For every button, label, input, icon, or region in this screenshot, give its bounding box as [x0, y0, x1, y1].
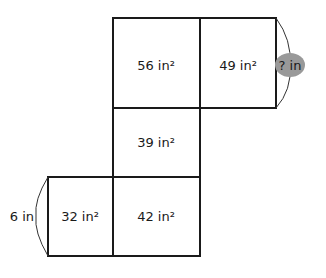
label-top-left: 56 in²: [137, 58, 175, 73]
label-bottom-right: 42 in²: [137, 209, 175, 224]
label-known-dimension: 6 in: [10, 209, 34, 224]
label-unknown-dimension: ? in: [279, 58, 302, 73]
net-diagram: 56 in² 49 in² 39 in² 32 in² 42 in² ? in …: [0, 0, 326, 278]
label-bottom-left: 32 in²: [61, 209, 99, 224]
label-top-right: 49 in²: [219, 58, 257, 73]
left-brace: [36, 177, 48, 256]
label-middle: 39 in²: [137, 135, 175, 150]
